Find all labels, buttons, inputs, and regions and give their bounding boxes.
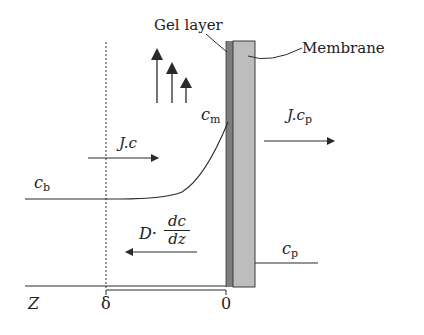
c-b-label: cb [34, 175, 50, 193]
c-m-label: cm [201, 107, 220, 125]
c-p-main: c [282, 239, 291, 258]
diffusion-numerator: dc [164, 214, 190, 229]
flux-label: J.c [119, 136, 137, 151]
axis-zero-label: 0 [221, 296, 231, 312]
axis-z-label: Z [28, 296, 39, 312]
c-p-sub: p [291, 247, 298, 260]
c-b-main: c [34, 173, 43, 192]
c-m-sub: m [210, 113, 220, 126]
membrane-leader [248, 48, 302, 59]
diffusion-prefix: D· [139, 226, 157, 242]
permeate-flux-label: J.cp [287, 108, 312, 125]
axis-delta-label: δ [101, 296, 111, 312]
membrane [233, 41, 255, 287]
permeate-flux-main: J.c [287, 106, 305, 124]
boundary-layer-bracket [106, 290, 226, 295]
diffusion-fraction: dc dz [164, 214, 190, 247]
c-b-sub: b [43, 181, 50, 194]
membrane-diagram: Gel layer Membrane cm J.c J.cp cb D· dc … [0, 0, 424, 335]
c-p-label: cp [282, 241, 298, 259]
gel-layer [226, 41, 233, 287]
diffusion-denominator: dz [164, 232, 190, 247]
gel-layer-leader [206, 34, 227, 52]
permeate-flux-sub: p [305, 113, 312, 126]
membrane-label: Membrane [302, 41, 385, 56]
c-m-main: c [201, 105, 210, 124]
gel-layer-label: Gel layer [154, 18, 223, 33]
